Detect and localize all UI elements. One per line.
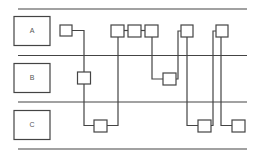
- activity-box: [60, 25, 72, 36]
- connector: [72, 31, 84, 73]
- activity-box: [145, 25, 158, 37]
- activity-box: [198, 120, 211, 132]
- activity-box: [78, 72, 91, 84]
- lane-label-c: C: [14, 121, 50, 128]
- connector: [84, 84, 94, 126]
- activity-box: [163, 73, 176, 85]
- activity-box: [216, 25, 228, 37]
- connector: [211, 31, 216, 126]
- connector: [152, 37, 163, 79]
- activity-box: [111, 25, 124, 37]
- connector: [221, 37, 232, 126]
- activity-box: [181, 25, 193, 37]
- activity-box: [232, 120, 245, 132]
- activity-box: [128, 25, 141, 37]
- connector: [187, 37, 198, 126]
- connector: [107, 37, 118, 126]
- lane-label-a: A: [14, 27, 50, 34]
- lane-label-b: B: [14, 74, 50, 81]
- activity-box: [94, 120, 107, 132]
